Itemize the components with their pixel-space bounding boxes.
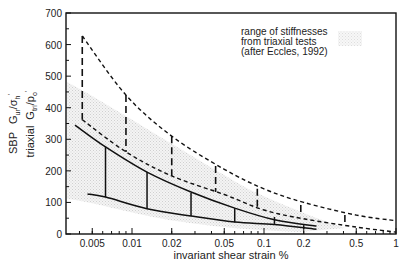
legend: range of stiffnesses from triaxial tests… xyxy=(241,26,362,57)
y-axis-title: SBPGur/σh' triaxialGtri/po' xyxy=(6,90,38,157)
y-tick-label: 0 xyxy=(56,229,62,240)
y-axis-title-sbp: SBPGur/σh' xyxy=(6,93,21,154)
y-tick-label: 600 xyxy=(45,40,62,51)
x-tick-label: 1 xyxy=(393,238,399,249)
y-tick-label: 300 xyxy=(45,134,62,145)
x-tick-label: 0.005 xyxy=(80,238,105,249)
y-axis-labels: 0100200300400500600700 xyxy=(45,8,62,240)
triaxial-range-band xyxy=(67,82,345,232)
y-tick-label: 400 xyxy=(45,103,62,114)
x-tick-label: 0.05 xyxy=(215,238,235,249)
y-tick-label: 100 xyxy=(45,197,62,208)
stiffness-chart: 0100200300400500600700 0.0050.010.020.05… xyxy=(0,0,405,267)
x-axis-labels: 0.0050.010.020.050.10.20.51 xyxy=(80,238,399,249)
x-axis-title: invariant shear strain % xyxy=(174,249,289,261)
y-tick-label: 700 xyxy=(45,8,62,19)
x-tick-label: 0.02 xyxy=(162,238,182,249)
y-axis-title-triaxial: triaxialGtri/po' xyxy=(23,90,38,157)
y-tick-label: 200 xyxy=(45,166,62,177)
x-tick-label: 0.01 xyxy=(122,238,142,249)
x-tick-label: 0.2 xyxy=(297,238,311,249)
y-tick-label: 500 xyxy=(45,71,62,82)
x-axis xyxy=(79,228,396,234)
legend-swatch xyxy=(338,31,362,46)
x-tick-label: 0.1 xyxy=(257,238,271,249)
legend-line-3: (after Eccles, 1992) xyxy=(241,46,328,57)
x-tick-label: 0.5 xyxy=(349,238,363,249)
